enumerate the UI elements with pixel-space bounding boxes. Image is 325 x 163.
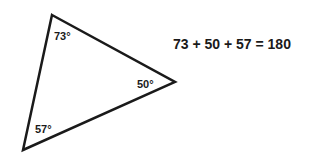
angle-sum-equation: 73 + 50 + 57 = 180 <box>173 36 291 52</box>
angle-label-top: 73° <box>54 30 71 42</box>
triangle-diagram: 73° 50° 57° <box>0 0 325 163</box>
angle-label-bottom: 57° <box>35 123 52 135</box>
angle-label-right: 50° <box>137 78 154 90</box>
